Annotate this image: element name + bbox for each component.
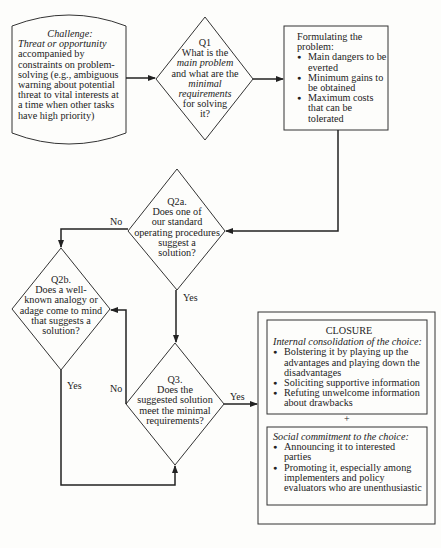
formulating-item: Main dangers to be everted [297,52,387,72]
closure-social-node: Social commitment to the choice: Announc… [273,432,423,493]
q1-text: it? [160,109,250,119]
q3-no-label: No [110,383,122,394]
closure-social-item: Promoting it, especially among implement… [273,463,423,494]
q3-node: Q3. Does the suggested solution meet the… [126,375,224,426]
q2a-no-label: No [110,216,122,227]
q2b-node: Q2b. Does a well- known analogy or adage… [12,275,110,336]
q2b-yes-label: Yes [67,380,82,391]
formulating-title: Formulating the problem: [297,32,387,52]
q1-node: Q1 What is the main problem and what are… [160,38,250,120]
arrow-formulating-to-q2a [226,130,338,231]
closure-title: CLOSURE [273,326,425,336]
closure-internal-item: Bolstering it by playing up the advantag… [273,347,425,378]
q2a-yes-label: Yes [183,292,198,303]
challenge-body: accompanied by constraints on problem-so… [18,49,122,120]
closure-internal-item: Refuting unwelcome information about dra… [273,388,425,408]
q3-yes-label: Yes [230,391,245,402]
closure-internal-node: CLOSURE Internal consolidation of the ch… [273,326,425,409]
formulating-item: Minimum gains to be obtained [297,73,387,93]
q3-text: requirements? [126,416,224,426]
closure-plus: + [344,413,350,424]
challenge-node: Challenge: Threat or opportunity accompa… [18,29,122,121]
q2a-node: Q2a. Does one of our standard operating … [128,197,226,258]
q2b-text: solution? [12,326,110,336]
formulating-node: Formulating the problem: Main dangers to… [297,32,387,124]
q2a-text: solution? [128,248,226,258]
closure-social-item: Announcing it to interested parties [273,442,423,462]
arrow-q2a-no-to-q2b [61,229,128,247]
formulating-item: Maximum costs that can be tolerated [297,93,387,124]
